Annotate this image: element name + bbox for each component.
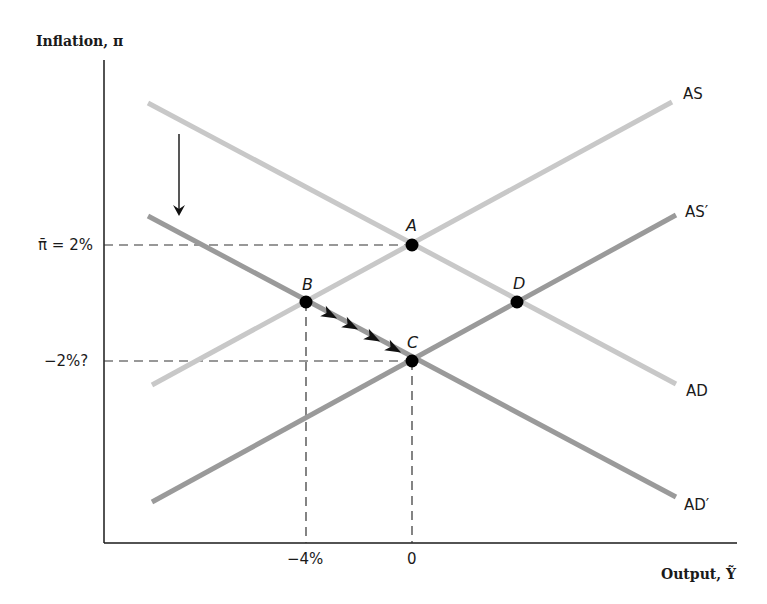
y-axis-title: Inflation, π: [36, 33, 123, 49]
point-a: [406, 239, 419, 252]
ad-label: AD: [686, 382, 708, 400]
chart-canvas: [0, 0, 767, 604]
shift-down-arrow-icon: [173, 134, 185, 216]
point-c: [406, 355, 419, 368]
ad-prime-label: AD′: [684, 496, 709, 514]
y-tick-minus-2-label: −2%?: [44, 352, 88, 370]
x-axis-title: Output, Ỹ: [661, 566, 736, 582]
y-tick-target-inflation: π̄ = 2%: [38, 236, 93, 254]
point-b: [300, 296, 313, 309]
x-tick-minus-4: −4%: [287, 550, 323, 568]
point-b-label: B: [302, 275, 313, 294]
as-label: AS: [683, 85, 703, 103]
point-c-label: C: [407, 333, 418, 352]
point-d-label: D: [513, 274, 525, 293]
point-d: [511, 296, 524, 309]
x-tick-zero: 0: [407, 550, 417, 568]
point-a-label: A: [406, 216, 417, 235]
as-prime-label: AS′: [685, 203, 708, 221]
